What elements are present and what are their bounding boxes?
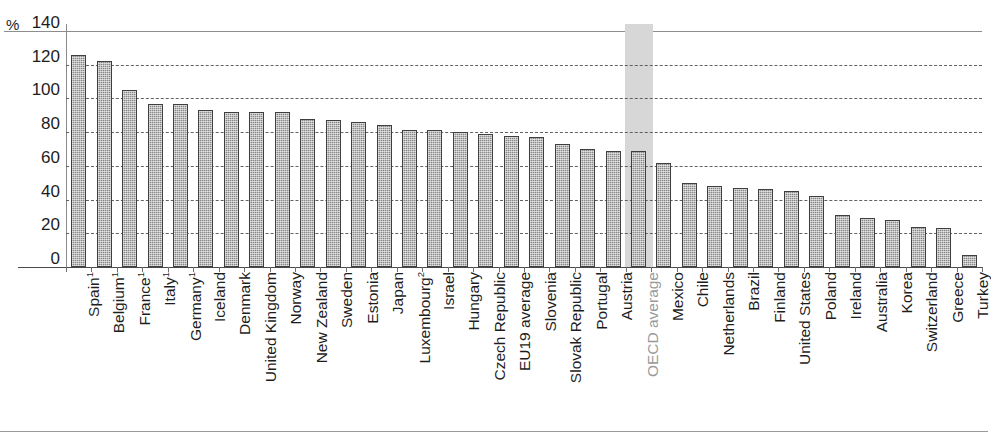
x-axis-label: Ireland — [848, 272, 864, 319]
x-axis-label: Greece — [950, 272, 966, 323]
x-axis-label: Australia — [874, 272, 890, 332]
y-tick-label: 40 — [20, 183, 60, 200]
x-axis-label: Italy1 — [161, 272, 178, 306]
x-axis-label: Mexico — [670, 272, 686, 321]
bar — [224, 112, 239, 267]
bar — [555, 144, 570, 267]
bar — [784, 191, 799, 267]
x-axis-label: Poland — [823, 272, 839, 320]
bar — [758, 189, 773, 267]
bar — [911, 227, 926, 267]
bar — [631, 151, 646, 267]
bar — [504, 136, 519, 267]
x-axis-label: Brazil — [746, 272, 762, 311]
x-axis-label: Korea — [899, 272, 915, 313]
bar — [71, 55, 86, 267]
bar — [249, 112, 264, 267]
bar — [351, 122, 366, 267]
x-axis-label: Sweden — [339, 272, 355, 328]
bar — [148, 104, 163, 268]
footnote-marker: 1 — [160, 272, 171, 277]
x-axis-label: Chile — [695, 272, 711, 307]
x-axis-label: Luxembourg2 — [416, 272, 433, 363]
x-axis-label: Norway — [288, 272, 304, 325]
bar — [885, 220, 900, 267]
x-axis-label: France1 — [136, 272, 153, 326]
bar — [427, 130, 442, 267]
bar — [97, 61, 112, 267]
bar — [835, 215, 850, 267]
x-axis-labels: Spain1Belgium1France1Italy1Germany1Icela… — [66, 272, 982, 432]
bar — [453, 132, 468, 267]
bar — [580, 149, 595, 267]
bar — [377, 125, 392, 267]
x-axis-label: Iceland — [212, 272, 228, 322]
x-axis-label: Slovenia — [543, 272, 559, 331]
x-axis-label: Estonia — [365, 272, 381, 324]
bar — [198, 110, 213, 267]
x-axis-label: Finland — [772, 272, 788, 323]
x-axis-label: Portugal — [594, 272, 610, 330]
footnote-marker: 1 — [109, 272, 120, 277]
bar — [707, 186, 722, 267]
x-axis-label: Slovak Republic — [568, 272, 584, 383]
bar-series — [66, 31, 982, 267]
x-axis-label: United States — [797, 272, 813, 365]
x-axis-label: Spain1 — [85, 272, 102, 317]
bar — [809, 196, 824, 267]
x-axis-label: United Kingdom — [263, 272, 279, 382]
bar — [402, 130, 417, 267]
bar — [733, 188, 748, 267]
x-axis-label: Turkey — [975, 272, 991, 319]
bar — [300, 119, 315, 267]
bar — [275, 112, 290, 267]
bar — [962, 255, 977, 267]
x-axis-label: Denmark — [237, 272, 253, 335]
y-tick-label: 120 — [20, 48, 60, 65]
x-axis-label: Czech Republic — [492, 272, 508, 381]
bar — [529, 137, 544, 267]
y-tick-label: 60 — [20, 149, 60, 166]
bar — [682, 183, 697, 267]
plot-area — [66, 31, 982, 267]
footnote-marker: 1 — [84, 272, 95, 277]
footnote-marker: 1 — [186, 272, 197, 277]
footnote-marker: 1 — [135, 272, 146, 277]
y-tick-label: 0 — [20, 250, 60, 267]
x-axis-label: EU19 average — [517, 272, 533, 371]
page-bottom-rule — [0, 431, 988, 432]
x-axis-label: Israel — [441, 272, 457, 310]
y-tick-label: 80 — [20, 115, 60, 132]
bar — [173, 104, 188, 268]
bar — [326, 120, 341, 267]
x-axis-line — [18, 267, 982, 268]
bar — [860, 218, 875, 267]
x-axis-label: Hungary — [466, 272, 482, 331]
y-tick-label: 20 — [20, 216, 60, 233]
footnote-marker: 2 — [415, 272, 426, 277]
x-axis-label: Germany1 — [187, 272, 204, 341]
x-axis-label: Belgium1 — [110, 272, 127, 333]
bar — [656, 163, 671, 268]
x-axis-label: Netherlands — [721, 272, 737, 356]
x-axis-label: Japan — [390, 272, 406, 314]
bar — [122, 90, 137, 267]
bar — [606, 151, 621, 267]
x-axis-label: Switzerland — [924, 272, 940, 352]
x-axis-label: Austria — [619, 272, 635, 320]
y-tick-label: 100 — [20, 81, 60, 98]
y-tick-label: 140 — [20, 14, 60, 31]
y-axis-ticks: 140120100806040200 — [18, 0, 60, 290]
x-axis-label: New Zealand — [314, 272, 330, 363]
x-axis-label: OECD average — [645, 272, 661, 377]
bar — [478, 134, 493, 267]
bar — [936, 228, 951, 267]
